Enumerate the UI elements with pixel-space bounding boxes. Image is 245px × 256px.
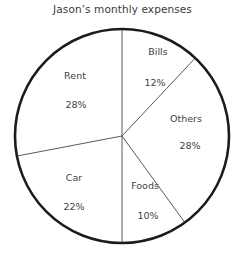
pie-chart-graphic	[0, 0, 245, 256]
pie-value-others: 28%	[179, 140, 200, 151]
pie-value-bills: 12%	[144, 77, 165, 88]
pie-value-car: 22%	[63, 201, 84, 212]
pie-value-foods: 10%	[137, 210, 158, 221]
pie-label-others: Others	[170, 113, 202, 124]
pie-label-rent: Rent	[64, 70, 86, 81]
pie-value-rent: 28%	[65, 99, 86, 110]
pie-chart-screenshot: Jason’s monthly expenses Bills12%Others2…	[0, 0, 245, 256]
pie-label-foods: Foods	[131, 180, 159, 191]
pie-label-bills: Bills	[148, 46, 167, 57]
pie-label-car: Car	[66, 172, 82, 183]
pie-slice-rent[interactable]	[15, 29, 122, 156]
